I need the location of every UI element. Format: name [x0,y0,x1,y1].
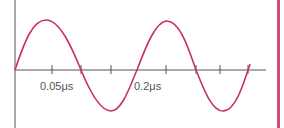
sine-wave [15,20,250,111]
tick-label-0-2us: 0.2μs [134,80,161,92]
tick-label-0-05us: 0.05μs [40,80,73,92]
right-border [277,0,280,128]
waveform-diagram [0,0,284,128]
